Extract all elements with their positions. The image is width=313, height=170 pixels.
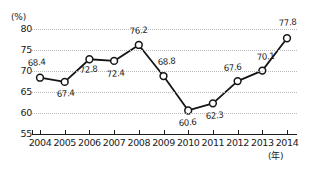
data-point-label: 68.4 <box>27 57 45 67</box>
gridline <box>32 50 297 51</box>
x-axis-tick <box>238 130 239 134</box>
x-axis-tick <box>139 130 140 134</box>
x-axis-tick <box>89 130 90 134</box>
data-point-label: 67.6 <box>223 63 241 73</box>
x-axis-tick <box>65 130 66 134</box>
data-point-marker <box>135 42 142 49</box>
x-axis-tick <box>213 130 214 134</box>
gridline <box>32 113 297 114</box>
x-axis-tick <box>287 130 288 134</box>
data-point-label: 76.2 <box>129 26 147 36</box>
x-axis-tick <box>262 130 263 134</box>
x-axis-tick <box>114 130 115 134</box>
x-axis-tick <box>188 130 189 134</box>
x-tick-label: 2014 <box>270 138 304 148</box>
data-point-label: 67.4 <box>56 89 74 99</box>
data-point-marker <box>86 56 93 63</box>
x-axis-unit-label: (年) <box>268 152 283 161</box>
x-axis-tick <box>40 130 41 134</box>
data-point-label: 62.3 <box>205 111 223 121</box>
data-point-marker <box>160 73 167 80</box>
data-point-label: 72.8 <box>80 65 98 75</box>
data-point-marker <box>284 35 291 42</box>
data-point-label: 70.1 <box>257 51 275 61</box>
data-point-label: 60.6 <box>179 118 197 128</box>
data-point-marker <box>111 58 118 65</box>
gridline <box>32 29 297 30</box>
data-point-label: 68.8 <box>157 57 175 67</box>
x-axis-tick <box>164 130 165 134</box>
data-point-label: 77.8 <box>278 18 296 28</box>
data-point-marker <box>234 78 241 85</box>
line-chart: (%) 556065707580 (年) 2004200520062007200… <box>0 0 313 170</box>
data-point-label: 72.4 <box>106 69 124 79</box>
data-point-marker <box>210 100 217 107</box>
data-point-marker <box>37 74 44 81</box>
data-point-marker <box>61 79 68 86</box>
gridline <box>32 71 297 72</box>
